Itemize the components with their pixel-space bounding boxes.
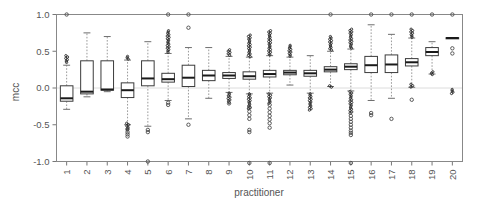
- outlier-cluster-lower: [450, 92, 452, 94]
- y-axis-title: mcc: [10, 83, 21, 101]
- x-tick-label: 7: [183, 170, 194, 175]
- outlier-point: [126, 135, 129, 138]
- outlier-point: [451, 47, 454, 50]
- boxplot-box: [446, 13, 459, 95]
- x-tick-label: 11: [264, 170, 275, 180]
- box-iqr: [81, 61, 94, 94]
- x-tick-label: 6: [163, 170, 174, 175]
- x-tick-label: 15: [345, 170, 356, 181]
- box-iqr: [101, 61, 114, 90]
- y-tick-label: -1.0: [33, 156, 49, 167]
- boxplot-box: [162, 13, 175, 107]
- boxplot-box: [365, 13, 378, 117]
- x-axis: 1234567891011121314151617181920: [61, 162, 458, 181]
- outlier-point: [268, 107, 271, 110]
- x-tick-label: 16: [366, 170, 377, 181]
- boxplot-box: [426, 13, 439, 76]
- x-tick-label: 13: [305, 170, 316, 181]
- outlier-cluster-upper: [330, 49, 332, 51]
- x-tick-label: 8: [203, 170, 214, 175]
- outlier-point: [369, 113, 372, 116]
- boxplot-box: [202, 48, 215, 99]
- outlier-point: [268, 118, 271, 121]
- x-tick-label: 18: [406, 170, 417, 181]
- outlier-point: [248, 110, 251, 113]
- boxplot-box: [263, 30, 276, 165]
- y-tick-label: 0.5: [36, 46, 49, 57]
- boxplot-box: [304, 56, 317, 112]
- x-tick-label: 9: [223, 170, 234, 175]
- outlier-point: [166, 103, 169, 106]
- plot-canvas: 1.00.50.0-0.5-1.0 1234567891011121314151…: [0, 0, 478, 207]
- x-tick-label: 1: [61, 170, 72, 175]
- outlier-point: [268, 122, 271, 125]
- x-tick-label: 4: [122, 170, 133, 175]
- outlier-point: [390, 117, 393, 120]
- x-tick-label: 17: [386, 170, 397, 181]
- boxplot-box: [101, 37, 114, 92]
- x-tick-label: 10: [244, 170, 255, 181]
- outlier-point: [268, 114, 271, 117]
- boxplot-box: [182, 13, 195, 127]
- x-tick-label: 5: [142, 170, 153, 175]
- boxplot-box: [284, 44, 297, 85]
- boxplot-box: [60, 13, 73, 110]
- x-tick-label: 3: [102, 170, 113, 175]
- box-iqr: [182, 65, 195, 86]
- x-tick-label: 20: [447, 170, 458, 181]
- outlier-point: [410, 98, 413, 101]
- outlier-point: [187, 26, 190, 29]
- outlier-point: [146, 128, 149, 131]
- x-axis-title: practitioner: [234, 187, 284, 198]
- boxplot-box: [345, 28, 358, 165]
- x-tick-label: 14: [325, 170, 336, 181]
- boxplot-box: [121, 55, 134, 138]
- boxplot-box: [81, 33, 94, 97]
- outlier-cluster-lower: [330, 86, 332, 88]
- x-tick-label: 12: [284, 170, 295, 181]
- outlier-point: [268, 111, 271, 114]
- outlier-point: [248, 113, 251, 116]
- boxplot-box: [324, 13, 337, 88]
- boxplot-box: [243, 34, 256, 165]
- outlier-point: [248, 128, 251, 131]
- x-tick-label: 19: [426, 170, 437, 181]
- boxplot-box: [142, 42, 155, 164]
- boxplot-box: [385, 13, 398, 121]
- outlier-point: [187, 123, 190, 126]
- box-iqr: [142, 61, 155, 86]
- box-series: [60, 13, 458, 165]
- outlier-point: [268, 126, 271, 129]
- outlier-cluster-upper: [127, 58, 129, 60]
- box-iqr: [162, 73, 175, 82]
- outlier-cluster-lower: [308, 109, 310, 111]
- outlier-point: [451, 52, 454, 55]
- y-tick-label: 1.0: [36, 9, 49, 20]
- boxplot-figure: 1.00.50.0-0.5-1.0 1234567891011121314151…: [0, 0, 478, 207]
- x-tick-label: 2: [81, 170, 92, 175]
- outlier-cluster-upper: [229, 54, 231, 56]
- y-tick-label: 0.0: [36, 82, 49, 93]
- y-axis: 1.00.50.0-0.5-1.0: [33, 9, 56, 167]
- outlier-point: [248, 117, 251, 120]
- boxplot-box: [223, 49, 236, 106]
- y-tick-label: -0.5: [33, 119, 49, 130]
